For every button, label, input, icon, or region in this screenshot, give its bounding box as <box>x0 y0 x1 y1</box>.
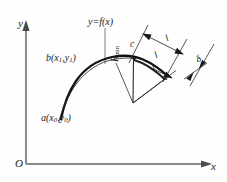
point-a-base: a(x <box>41 112 54 123</box>
radius-sub: min <box>113 46 120 56</box>
dimension-upper-l <box>142 34 184 55</box>
diagram-canvas <box>0 0 227 182</box>
radius-min-label: Rmin <box>110 46 120 62</box>
function-label: y=f(x) <box>88 17 113 27</box>
y-axis-label: y <box>18 18 23 29</box>
point-marker-c <box>132 57 134 59</box>
point-b-end: ) <box>73 52 76 63</box>
extension-lines-group <box>129 25 214 86</box>
geometry-figure: y x O y=f(x) b(x1,y1) a(x0,y0) c d l l R… <box>0 0 227 182</box>
point-d-label: d <box>163 73 168 83</box>
y-axis-arrowhead <box>22 20 29 31</box>
origin-label: O <box>15 158 23 169</box>
point-b-base: b(x <box>46 52 59 63</box>
radius-construction-ray <box>116 63 133 103</box>
function-curve <box>61 56 167 119</box>
radius-line-to-c <box>133 59 134 104</box>
dimension-upper-l-arrow-end <box>174 48 183 55</box>
axes-group <box>22 20 212 168</box>
radius-base: R <box>109 56 120 62</box>
x-axis-label: x <box>211 161 216 172</box>
point-b-label: b(x1,y1) <box>46 53 76 64</box>
dimension-delta <box>184 60 207 81</box>
dimension-upper-l-arrow-start <box>142 34 151 41</box>
point-c-label: c <box>130 40 134 50</box>
point-a-end: ) <box>68 112 71 123</box>
point-a-label: a(x0,y0) <box>41 113 71 124</box>
